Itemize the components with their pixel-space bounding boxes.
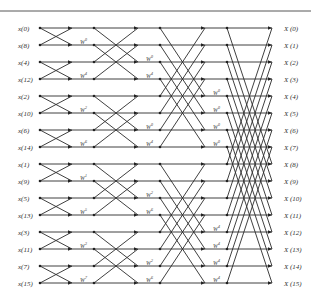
input-label: x(12)	[17, 76, 33, 84]
node-dot	[93, 146, 96, 149]
node-dot	[226, 197, 229, 200]
twiddle-label: W4	[213, 258, 220, 266]
node-dot	[226, 95, 229, 98]
output-label: X (6)	[283, 127, 299, 135]
twiddle-label: W3	[80, 241, 87, 249]
node-dot	[159, 27, 162, 30]
node-dot	[93, 44, 96, 47]
node-dot	[226, 27, 229, 30]
node-dot	[159, 214, 162, 217]
node-dot	[159, 180, 162, 183]
input-label: x(14)	[17, 144, 33, 152]
twiddle-label: W0	[80, 37, 87, 45]
node-dot	[93, 248, 96, 251]
node-dot	[226, 214, 229, 217]
node-dot	[93, 214, 96, 217]
node-dot	[159, 129, 162, 132]
node-dot	[39, 44, 42, 47]
node-dot	[39, 61, 42, 64]
twiddle-label: W5	[80, 207, 87, 215]
node-dot	[39, 129, 42, 132]
input-label: x(7)	[17, 263, 30, 271]
node-dot	[93, 27, 96, 30]
output-label: X (10)	[283, 195, 302, 203]
node-dot	[159, 163, 162, 166]
node-dot	[39, 78, 42, 81]
butterfly-wires	[40, 28, 272, 283]
node-dot	[93, 163, 96, 166]
fft-butterfly-diagram: x(0)x(8)x(4)x(12)x(2)x(10)x(6)x(14)x(1)x…	[0, 0, 311, 300]
twiddle-label: W4	[213, 241, 220, 249]
input-label: x(1)	[17, 161, 30, 169]
node-dot	[93, 197, 96, 200]
node-dot	[159, 282, 162, 285]
input-label: x(2)	[17, 93, 30, 101]
twiddle-label: W4	[213, 275, 220, 283]
node-dot	[159, 44, 162, 47]
twiddle-label: W1	[80, 173, 87, 181]
node-dot	[93, 282, 96, 285]
twiddle-label: W6	[80, 139, 87, 147]
input-label: x(8)	[17, 42, 30, 50]
output-label: X (2)	[283, 59, 299, 67]
node-dot	[159, 78, 162, 81]
node-dot	[39, 146, 42, 149]
node-dot	[226, 61, 229, 64]
output-label: X (3)	[283, 76, 299, 84]
output-label: X (14)	[283, 263, 302, 271]
node-dot	[39, 27, 42, 30]
node-dot	[226, 248, 229, 251]
input-label: x(9)	[17, 178, 30, 186]
output-label: X (11)	[283, 212, 302, 220]
node-dot	[159, 231, 162, 234]
twiddle-label: W0	[213, 139, 220, 147]
input-label: x(11)	[17, 246, 33, 254]
twiddle-label: W0	[213, 105, 220, 113]
node-dot	[39, 282, 42, 285]
node-dot	[226, 163, 229, 166]
node-dot	[93, 78, 96, 81]
node-dot	[39, 265, 42, 268]
twiddle-label: W0	[213, 88, 220, 96]
output-label: X (8)	[283, 161, 299, 169]
node-dot	[226, 265, 229, 268]
twiddle-label: W4	[146, 71, 153, 79]
node-dot	[159, 265, 162, 268]
output-label: X (15)	[283, 280, 302, 288]
node-dot	[39, 214, 42, 217]
output-label: X (9)	[283, 178, 299, 186]
output-label: X (4)	[283, 93, 299, 101]
twiddle-label: W4	[213, 224, 220, 232]
input-label: x(5)	[17, 195, 30, 203]
node-dot	[159, 248, 162, 251]
node-dot	[159, 61, 162, 64]
node-dot	[159, 95, 162, 98]
node-dot	[93, 112, 96, 115]
node-dot	[39, 95, 42, 98]
output-label: X (7)	[283, 144, 299, 152]
node-dot	[93, 61, 96, 64]
node-dot	[159, 146, 162, 149]
twiddle-label: W2	[80, 105, 87, 113]
input-label: x(3)	[17, 229, 30, 237]
twiddle-label: W2	[146, 258, 153, 266]
input-label: x(6)	[17, 127, 30, 135]
input-label: x(0)	[17, 25, 30, 33]
node-dot	[39, 180, 42, 183]
twiddle-label: W0	[146, 54, 153, 62]
twiddle-label: W7	[80, 275, 88, 283]
input-label: x(13)	[17, 212, 33, 220]
input-label: x(10)	[17, 110, 33, 118]
node-dot	[159, 197, 162, 200]
node-dot	[226, 282, 229, 285]
output-label: X (0)	[283, 25, 299, 33]
twiddle-label: W0	[146, 122, 153, 130]
node-dot	[226, 146, 229, 149]
twiddle-label: W6	[146, 275, 153, 283]
node-dot	[39, 197, 42, 200]
node-dot	[226, 44, 229, 47]
node-dot	[39, 248, 42, 251]
node-dot	[226, 180, 229, 183]
twiddle-label: W2	[146, 190, 153, 198]
output-label: X (5)	[283, 110, 299, 118]
